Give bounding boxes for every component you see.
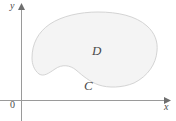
y-axis-arrowhead-icon xyxy=(18,3,25,10)
y-axis-label: y xyxy=(10,1,14,11)
diagram-svg xyxy=(0,0,176,121)
origin-label: 0 xyxy=(10,100,15,110)
figure-canvas: y x 0 D C xyxy=(0,0,176,121)
curve-label-c: C xyxy=(84,79,93,92)
x-axis-label: x xyxy=(164,102,168,112)
region-label-d: D xyxy=(92,44,101,57)
